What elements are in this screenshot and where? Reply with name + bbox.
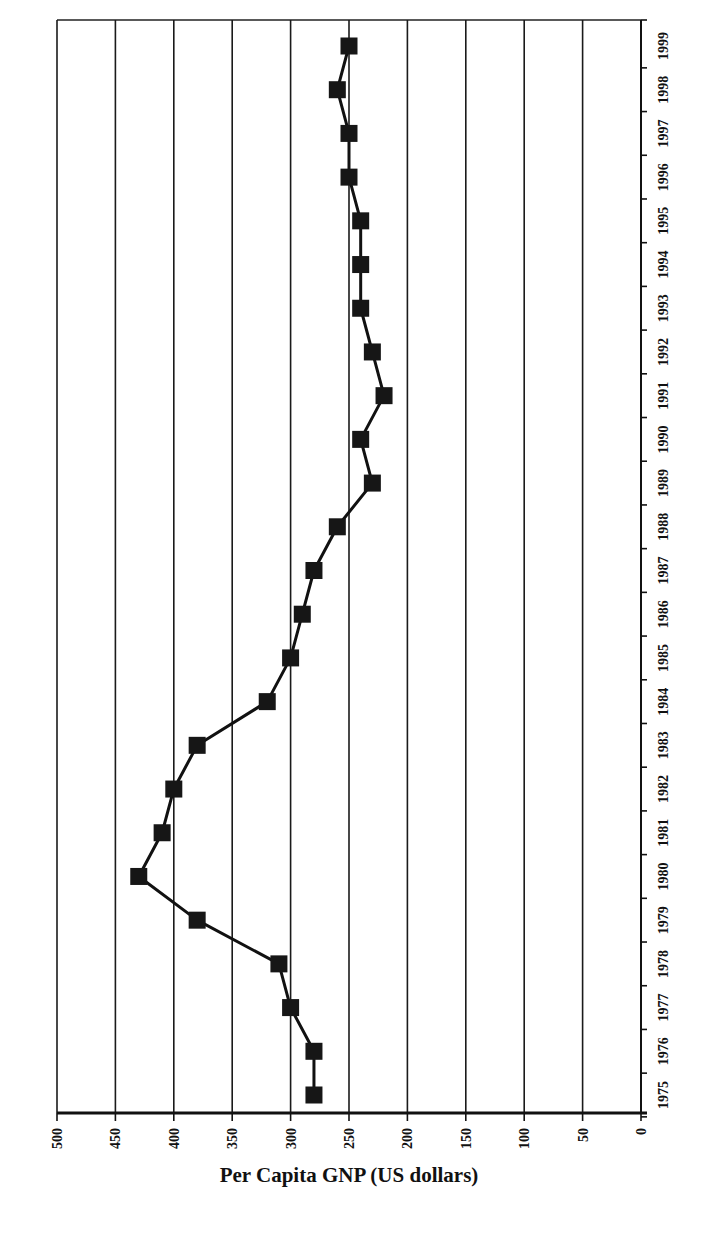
category-tick-label: 1997: [656, 119, 671, 147]
square-marker: [154, 824, 171, 841]
category-tick-label: 1987: [656, 557, 671, 585]
value-tick-label: 350: [225, 1128, 240, 1149]
data-series: [130, 38, 392, 1104]
category-tick-label: 1983: [656, 731, 671, 759]
line-chart: 5004504003503002502001501005001975197619…: [0, 0, 715, 1236]
category-tick-label: 1976: [656, 1037, 671, 1065]
category-tick-label: 1996: [656, 163, 671, 191]
square-marker: [282, 999, 299, 1016]
square-marker: [352, 300, 369, 317]
square-marker: [341, 125, 358, 142]
value-tick-label: 200: [400, 1128, 415, 1149]
value-tick-label: 400: [167, 1128, 182, 1149]
chart-container: 5004504003503002502001501005001975197619…: [0, 0, 715, 1236]
square-marker: [305, 1043, 322, 1060]
category-tick-label: 1977: [656, 994, 671, 1022]
square-marker: [352, 431, 369, 448]
category-tick-label: 1979: [656, 906, 671, 934]
square-marker: [282, 649, 299, 666]
square-marker: [165, 781, 182, 798]
square-marker: [329, 518, 346, 535]
value-tick-label: 150: [459, 1128, 474, 1149]
category-tick-label: 1985: [656, 644, 671, 672]
value-tick-label: 500: [50, 1128, 65, 1149]
category-tick-label: 1993: [656, 294, 671, 322]
category-tick-label: 1990: [656, 425, 671, 453]
category-tick-label: 1975: [656, 1081, 671, 1109]
square-marker: [376, 387, 393, 404]
square-marker: [305, 562, 322, 579]
value-tick-label: 0: [634, 1128, 649, 1135]
category-tick-label: 1989: [656, 469, 671, 497]
value-tick-label: 250: [342, 1128, 357, 1149]
x-axis-title: Per Capita GNP (US dollars): [220, 1163, 479, 1187]
square-marker: [189, 912, 206, 929]
category-tick-label: 1995: [656, 207, 671, 235]
value-tick-label: 50: [576, 1128, 591, 1142]
square-marker: [364, 343, 381, 360]
square-marker: [259, 693, 276, 710]
category-tick-label: 1978: [656, 950, 671, 978]
category-tick-label: 1994: [656, 251, 671, 279]
series-line: [139, 46, 384, 1095]
square-marker: [294, 606, 311, 623]
square-marker: [130, 868, 147, 885]
square-marker: [352, 256, 369, 273]
category-tick-label: 1981: [656, 819, 671, 847]
category-tick-label: 1991: [656, 382, 671, 410]
category-tick-label: 1980: [656, 862, 671, 890]
category-tick-label: 1986: [656, 600, 671, 628]
square-marker: [352, 212, 369, 229]
category-tick-label: 1992: [656, 338, 671, 366]
square-marker: [329, 81, 346, 98]
category-tick-label: 1998: [656, 76, 671, 104]
category-tick-label: 1999: [656, 32, 671, 60]
value-tick-label: 300: [284, 1128, 299, 1149]
square-marker: [341, 169, 358, 186]
square-marker: [270, 955, 287, 972]
square-marker: [364, 475, 381, 492]
tick-labels: 5004504003503002502001501005001975197619…: [50, 32, 671, 1149]
value-tick-label: 450: [108, 1128, 123, 1149]
category-tick-label: 1984: [656, 688, 671, 716]
category-tick-label: 1982: [656, 775, 671, 803]
square-marker: [305, 1087, 322, 1104]
square-marker: [189, 737, 206, 754]
category-tick-label: 1988: [656, 513, 671, 541]
square-marker: [341, 38, 358, 55]
value-tick-label: 100: [517, 1128, 532, 1149]
